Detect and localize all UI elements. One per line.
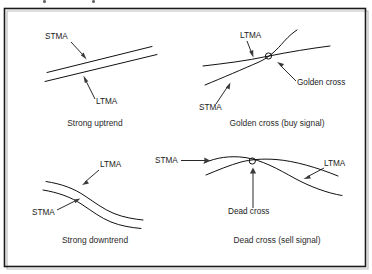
caption-strong-downtrend: Strong downtrend (62, 235, 128, 245)
label-ltma-downtrend: LTMA (100, 160, 122, 169)
stma-leader-golden (216, 86, 228, 104)
label-stma-golden: STMA (199, 103, 222, 112)
label-ltma-uptrend: LTMA (96, 97, 118, 106)
panel-golden-cross: LTMA STMA Golden cross Golden cross (buy… (199, 30, 345, 128)
label-stma-uptrend: STMA (45, 32, 68, 41)
caption-golden-cross: Golden cross (buy signal) (230, 118, 325, 128)
label-ltma-dead: LTMA (324, 159, 346, 168)
panel-strong-downtrend: LTMA STMA Strong downtrend (32, 160, 143, 245)
ltma-line-dead (204, 157, 342, 196)
ltma-line-golden (203, 46, 330, 66)
ltma-line-downtrend (46, 182, 143, 221)
stma-leader-uptrend (71, 42, 84, 56)
ltma-arrowhead-uptrend (83, 76, 88, 83)
label-ltma-golden: LTMA (240, 31, 262, 40)
label-stma-downtrend: STMA (32, 208, 55, 217)
moving-average-crossover-figure: STMA LTMA Strong uptrend LTMA STMA Golde… (0, 0, 372, 274)
panel-dead-cross: STMA LTMA Dead cross Dead cross (sell si… (155, 156, 346, 245)
stma-leader-downtrend (57, 200, 77, 210)
label-dead-cross: Dead cross (228, 207, 269, 216)
ltma-arrowhead-downtrend (82, 180, 89, 185)
caption-dead-cross: Dead cross (sell signal) (233, 235, 320, 245)
cropped-text-remnant (43, 0, 95, 3)
label-golden-cross: Golden cross (297, 78, 345, 87)
ltma-arrowhead-golden (249, 50, 253, 58)
stma-arrowhead-dead (204, 158, 210, 164)
panel-strong-uptrend: STMA LTMA Strong uptrend (45, 32, 157, 128)
figure-frame (5, 9, 369, 270)
label-stma-dead: STMA (155, 156, 178, 165)
golden-cross-leader (280, 65, 296, 81)
ltma-line-uptrend (45, 55, 157, 82)
golden-cross-arrowhead (277, 62, 284, 67)
stma-line-dead (206, 159, 338, 176)
ltma-leader-downtrend (85, 170, 99, 182)
dead-cross-arrowhead (250, 168, 256, 174)
caption-strong-uptrend: Strong uptrend (67, 118, 123, 128)
